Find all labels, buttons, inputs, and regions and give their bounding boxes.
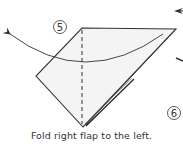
origami-diagram: 5 6	[0, 0, 183, 151]
next-step-arrows	[174, 8, 183, 61]
step-5-badge: 5	[54, 21, 67, 34]
arrow-tick-icon	[176, 58, 183, 61]
paper-shape	[36, 28, 176, 127]
step-6-number: 6	[171, 108, 177, 119]
step-6-badge: 6	[168, 107, 181, 120]
caption: Fold right flap to the left.	[0, 130, 183, 141]
step-5-number: 5	[57, 22, 63, 33]
